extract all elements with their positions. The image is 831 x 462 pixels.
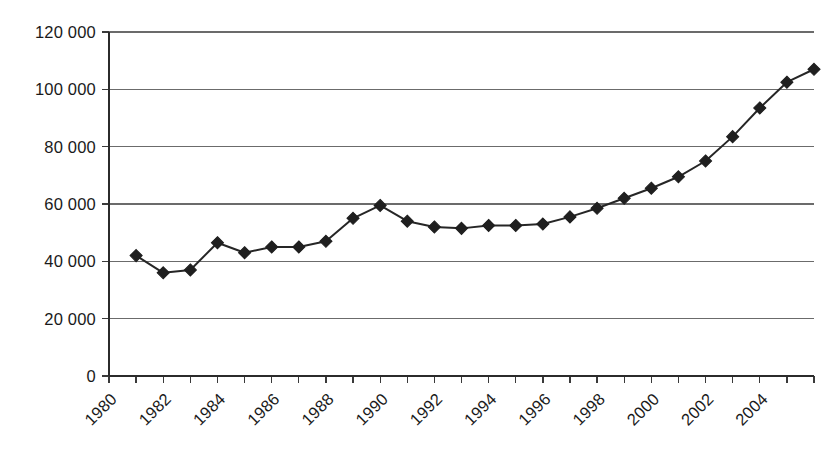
data-point-marker: [374, 199, 386, 211]
y-tick-label: 60 000: [44, 195, 96, 213]
x-axis-tick-labels: 1980198219841986198819901992199419961998…: [81, 389, 771, 428]
data-point-marker: [808, 63, 820, 75]
chart-canvas: 020 00040 00060 00080 000100 000120 000 …: [0, 0, 831, 462]
x-tick-label: 1990: [352, 389, 391, 428]
y-tick-label: 0: [87, 367, 96, 385]
data-point-marker: [564, 211, 576, 223]
data-point-marker: [401, 215, 413, 227]
data-point-marker: [510, 220, 522, 232]
x-tick-label: 1996: [515, 389, 554, 428]
x-tick-label: 2002: [677, 389, 716, 428]
data-point-marker: [645, 182, 657, 194]
data-point-marker: [483, 220, 495, 232]
y-tick-label: 80 000: [44, 138, 96, 156]
x-tick-label: 1986: [244, 389, 283, 428]
x-tick-label: 1984: [189, 389, 228, 428]
x-tick-label: 1980: [81, 389, 120, 428]
x-tick-label: 1994: [460, 389, 499, 428]
data-point-marker: [266, 241, 278, 253]
x-tick-label: 2004: [732, 389, 771, 428]
data-point-marker: [130, 250, 142, 262]
x-tick-label: 1982: [135, 389, 174, 428]
y-tick-label: 120 000: [35, 23, 96, 41]
x-tick-label: 1988: [298, 389, 337, 428]
data-point-marker: [239, 247, 251, 259]
x-tick-label: 1992: [406, 389, 445, 428]
data-point-marker: [456, 222, 468, 234]
data-series-line: [136, 69, 814, 273]
axis-ticks: [102, 32, 814, 383]
data-point-markers: [130, 63, 820, 279]
y-tick-label: 40 000: [44, 252, 96, 270]
x-tick-label: 1998: [569, 389, 608, 428]
data-point-marker: [618, 192, 630, 204]
data-point-marker: [428, 221, 440, 233]
y-axis-tick-labels: 020 00040 00060 00080 000100 000120 000: [35, 23, 96, 385]
y-tick-label: 20 000: [44, 310, 96, 328]
line-chart: 020 00040 00060 00080 000100 000120 000 …: [0, 0, 831, 462]
gridlines: [109, 32, 814, 319]
x-tick-label: 2000: [623, 389, 662, 428]
data-point-marker: [672, 171, 684, 183]
data-point-marker: [157, 267, 169, 279]
data-point-marker: [293, 241, 305, 253]
data-point-marker: [537, 218, 549, 230]
y-tick-label: 100 000: [35, 80, 96, 98]
